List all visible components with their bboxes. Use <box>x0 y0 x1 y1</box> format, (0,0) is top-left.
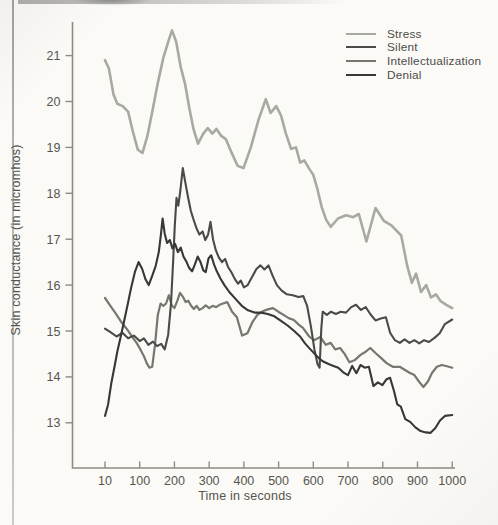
legend-item-stress: Stress <box>346 27 481 41</box>
legend-item-silent: Silent <box>346 41 481 55</box>
svg-text:15: 15 <box>47 325 61 339</box>
svg-text:100: 100 <box>129 474 150 488</box>
svg-text:13: 13 <box>47 416 61 430</box>
svg-text:20: 20 <box>47 95 61 109</box>
svg-text:17: 17 <box>47 233 61 247</box>
legend-line-swatch <box>346 33 376 35</box>
chart-legend: Stress Silent Intellectualization Denial <box>346 27 481 81</box>
legend-item-denial: Denial <box>346 68 481 82</box>
legend-label: Silent <box>387 40 418 54</box>
svg-text:800: 800 <box>372 474 393 488</box>
legend-label: Intellectualization <box>387 54 481 68</box>
legend-line-swatch <box>346 46 376 48</box>
legend-item-intellectualization: Intellectualization <box>346 54 481 68</box>
svg-text:10: 10 <box>98 474 112 488</box>
x-axis-title: Time in seconds <box>130 489 360 503</box>
svg-text:14: 14 <box>47 370 61 384</box>
svg-text:16: 16 <box>47 279 61 293</box>
svg-text:900: 900 <box>407 474 428 488</box>
y-axis-title: Skin conductance (in micromhos) <box>9 125 23 355</box>
legend-label: Stress <box>387 27 422 41</box>
svg-text:200: 200 <box>164 474 185 488</box>
svg-text:500: 500 <box>268 474 289 488</box>
svg-text:700: 700 <box>338 474 359 488</box>
legend-line-swatch <box>346 60 376 62</box>
figure-page: 1314151617181920211010020030040050060070… <box>0 0 498 525</box>
svg-text:18: 18 <box>47 187 61 201</box>
svg-text:600: 600 <box>303 474 324 488</box>
svg-text:400: 400 <box>233 474 254 488</box>
svg-text:1000: 1000 <box>438 474 466 488</box>
svg-text:19: 19 <box>47 141 61 155</box>
svg-text:21: 21 <box>47 49 61 63</box>
legend-line-swatch <box>346 74 376 76</box>
svg-text:300: 300 <box>199 474 220 488</box>
legend-label: Denial <box>387 68 422 82</box>
